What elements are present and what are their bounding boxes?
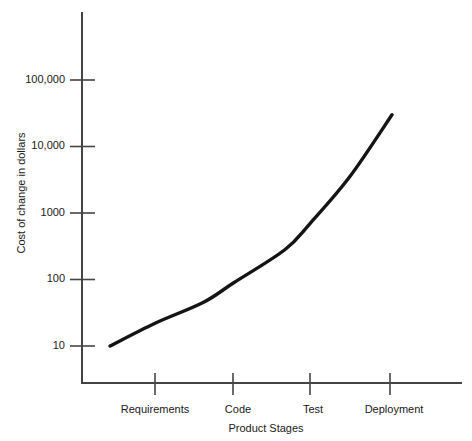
x-tick-label-code: Code: [225, 403, 251, 415]
x-tick-label-test: Test: [303, 403, 323, 415]
x-axis-title: Product Stages: [228, 422, 304, 434]
y-tick-label-10: 10: [53, 339, 65, 351]
y-axis-title: Cost of change in dollars: [15, 132, 27, 254]
cost-of-change-chart: 100,000 10,000 1000 100 10 Requirements …: [0, 0, 472, 441]
cost-of-change-curve: [110, 115, 392, 346]
x-tick-label-deployment: Deployment: [365, 403, 424, 415]
y-tick-label-100: 100: [47, 272, 65, 284]
x-tick-label-requirements: Requirements: [121, 403, 190, 415]
chart-canvas: 100,000 10,000 1000 100 10 Requirements …: [0, 0, 472, 441]
y-tick-label-1000: 1000: [41, 206, 65, 218]
y-tick-label-100000: 100,000: [25, 73, 65, 85]
y-tick-label-10000: 10,000: [31, 139, 65, 151]
